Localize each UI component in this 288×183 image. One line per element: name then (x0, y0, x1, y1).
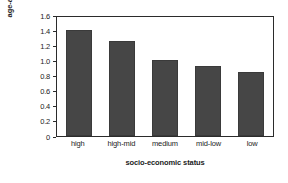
y-tick-label: 0.8 (40, 72, 53, 81)
y-tick: 1.2 (40, 41, 56, 51)
plot-area (57, 17, 273, 136)
bar-high-mid (109, 41, 135, 136)
plot-frame (56, 16, 274, 137)
x-axis-title: socio-economic status (56, 158, 274, 167)
y-tick: 1.4 (40, 26, 56, 36)
x-tick-label: mid-low (188, 139, 230, 148)
y-tick-label: 0.2 (40, 117, 53, 126)
x-tick-label: high (57, 139, 99, 148)
bar-chart-figure: age-adjusted incidence (per 100,000) 1.6… (0, 0, 288, 183)
y-tick: 1.6 (40, 11, 56, 21)
y-tick: 0.4 (40, 102, 56, 112)
bar-mid-low (195, 66, 221, 136)
y-axis-title-line-1: age-adjusted incidence (5, 0, 15, 17)
x-tick-label: medium (144, 139, 186, 148)
y-tick: 0 (46, 132, 56, 142)
y-tick-label: 1.2 (40, 42, 53, 51)
y-tick-label: 1.4 (40, 27, 53, 36)
y-tick: 0.2 (40, 117, 56, 127)
y-tick-label: 1.0 (40, 57, 53, 66)
y-tick: 0.6 (40, 87, 56, 97)
x-tick-label: high-mid (100, 139, 142, 148)
y-tick-label: 0.6 (40, 87, 53, 96)
y-axis-ticks: 1.61.41.21.00.80.60.40.20 (0, 16, 56, 137)
y-tick-label: 1.6 (40, 12, 53, 21)
bar-medium (152, 60, 178, 136)
x-axis-ticks: highhigh-midmediummid-lowlow (56, 139, 274, 151)
x-tick-label: low (231, 139, 273, 148)
bar-high (66, 30, 92, 136)
y-tick: 0.8 (40, 72, 56, 82)
bar-low (238, 72, 264, 136)
y-tick: 1.0 (40, 56, 56, 66)
y-tick-label: 0 (46, 133, 53, 142)
y-tick-label: 0.4 (40, 102, 53, 111)
